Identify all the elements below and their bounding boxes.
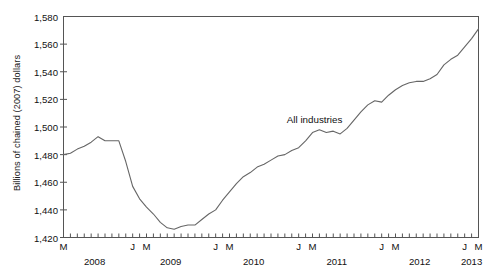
y-axis-tick-label: 1,500: [18, 122, 58, 133]
y-axis-tick-label: 1,560: [18, 39, 58, 50]
x-axis-month-label: M: [60, 241, 68, 252]
y-axis-tick-label: 1,520: [18, 94, 58, 105]
x-axis-month-label: J: [130, 241, 135, 252]
y-axis-tick-label: 1,440: [18, 204, 58, 215]
x-axis-year-label: 2013: [461, 256, 482, 267]
x-axis-month-label: J: [379, 241, 384, 252]
series-annotation-all-industries: All industries: [287, 114, 343, 125]
x-axis-year-label: 2009: [160, 256, 181, 267]
y-axis-tick-labels: 1,4201,4401,4601,4801,5001,5201,5401,560…: [18, 0, 58, 273]
x-axis-month-label: M: [475, 241, 483, 252]
data-line-all-industries: [64, 29, 479, 229]
x-axis-month-label: J: [213, 241, 218, 252]
y-axis-tick-label: 1,580: [18, 11, 58, 22]
chart-figure: Billions of chained (2007) dollars 1,420…: [0, 0, 497, 273]
x-axis-year-label: 2012: [409, 256, 430, 267]
y-axis-tick-label: 1,540: [18, 66, 58, 77]
x-axis-month-label: M: [143, 241, 151, 252]
y-axis-tick-label: 1,420: [18, 232, 58, 243]
plot-area: [0, 0, 497, 273]
y-axis-tick-label: 1,460: [18, 177, 58, 188]
plot-frame: [64, 17, 479, 238]
x-axis-month-label: M: [392, 241, 400, 252]
x-axis-month-label: J: [462, 241, 467, 252]
x-axis-month-label: J: [296, 241, 301, 252]
x-axis-month-label: M: [226, 241, 234, 252]
x-axis-year-label: 2011: [326, 256, 347, 267]
x-axis-month-label: M: [309, 241, 317, 252]
y-axis-tick-label: 1,480: [18, 149, 58, 160]
x-axis-year-label: 2008: [84, 256, 105, 267]
x-axis-year-label: 2010: [243, 256, 264, 267]
